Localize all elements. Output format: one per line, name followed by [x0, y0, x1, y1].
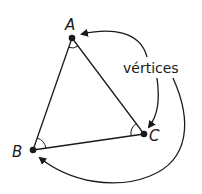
arrow-to-b — [40, 78, 185, 183]
side-bc — [33, 134, 144, 150]
vertex-a-dot — [69, 35, 76, 42]
vertex-b-label: B — [12, 143, 22, 161]
vertex-a-label: A — [64, 16, 75, 34]
vertices-annotation-label: vértices — [123, 60, 179, 76]
angle-mark-c — [131, 124, 136, 136]
side-ab — [33, 38, 72, 150]
triangle-diagram: A B C vértices — [0, 0, 202, 194]
angle-marks — [37, 46, 136, 148]
vertex-b-dot — [30, 147, 37, 154]
vertex-c-dot — [141, 131, 148, 138]
arrow-to-a — [82, 31, 147, 57]
annotation-arrows — [40, 31, 185, 183]
arrow-to-c — [149, 78, 158, 127]
side-ac — [72, 38, 144, 134]
vertex-c-label: C — [149, 127, 160, 145]
angle-mark-a — [69, 46, 78, 48]
triangle-sides — [33, 38, 144, 150]
angle-mark-b — [37, 138, 46, 148]
